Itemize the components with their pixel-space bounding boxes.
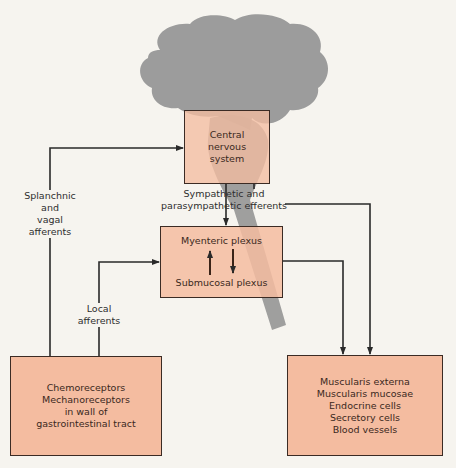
efferent-to-effectors-arrow [285, 204, 370, 354]
sympathetic-parasympathetic-efferents-label: Sympathetic and parasympathetic efferent… [160, 188, 288, 212]
label-line: Local [76, 303, 122, 315]
label-line: Sympathetic and [160, 188, 288, 200]
label-line: vagal [22, 214, 78, 226]
label-line: Splanchnic [22, 190, 78, 202]
enteric-to-effectors-arrow [283, 261, 343, 354]
label-line: parasympathetic efferents [160, 200, 288, 212]
splanchnic-vagal-afferents-label: Splanchnic and vagal afferents [22, 190, 78, 238]
label-line: and [22, 202, 78, 214]
local-afferents-label: Local afferents [76, 303, 122, 327]
label-line: afferents [76, 315, 122, 327]
label-line: afferents [22, 226, 78, 238]
